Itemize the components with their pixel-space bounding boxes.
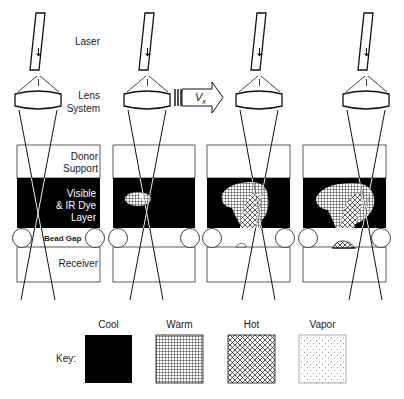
label-velocity: Vx — [195, 92, 206, 107]
lens-stage-1 — [15, 91, 61, 109]
stage-panel-4 — [299, 145, 391, 282]
label-bead-gap: Bead Gap — [44, 233, 81, 244]
label-lens-line2: System — [56, 103, 100, 114]
legend-swatch-warm — [156, 335, 203, 383]
label-donor-line2: Support — [40, 163, 98, 174]
legend-label-warm: Warm — [156, 319, 203, 330]
laser-stage-2 — [127, 13, 168, 92]
label-dye-line1: Visible — [40, 188, 96, 199]
stage-panel-2 — [109, 145, 200, 282]
label-lens-line1: Lens — [60, 90, 100, 101]
legend-swatch-vapor — [299, 335, 346, 383]
legend-title: Key: — [56, 353, 76, 364]
laser-stage-1 — [18, 13, 59, 92]
legend-label-cool: Cool — [85, 319, 132, 330]
label-donor-line1: Donor — [40, 151, 98, 162]
vapor-droplet — [236, 243, 246, 247]
warm-spot — [125, 192, 151, 206]
lens-stage-2 — [124, 91, 170, 109]
stage-panel-3 — [203, 145, 295, 282]
laser-stage-4 — [346, 13, 387, 92]
label-dye-line3: Layer — [40, 212, 96, 223]
legend-swatch-cool — [85, 335, 132, 383]
legend-swatch-hot — [228, 335, 275, 383]
legend-label-hot: Hot — [228, 319, 275, 330]
legend-label-vapor: Vapor — [299, 319, 346, 330]
laser-stage-3 — [239, 13, 280, 92]
transferred-vapor — [333, 241, 354, 248]
label-dye-line2: & IR Dye — [40, 200, 96, 211]
lens-stage-4 — [343, 91, 389, 109]
lens-stage-3 — [236, 91, 282, 109]
label-laser: Laser — [75, 36, 100, 47]
label-receiver: Receiver — [40, 258, 98, 269]
legend — [85, 335, 346, 383]
